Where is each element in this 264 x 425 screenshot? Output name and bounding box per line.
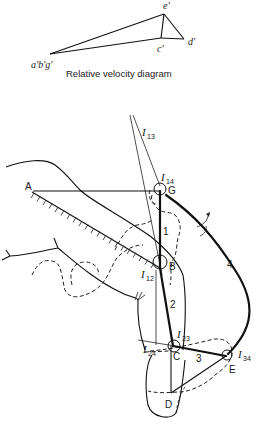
svg-text:14: 14 [166, 178, 174, 185]
joint-e-label: E [229, 364, 236, 375]
svg-text:24: 24 [148, 350, 156, 357]
point-c-prime: c' [157, 43, 164, 54]
svg-text:23: 23 [182, 335, 190, 342]
ic-12: I 12 [140, 268, 154, 282]
velocity-polygon [50, 14, 184, 54]
svg-text:34: 34 [243, 355, 251, 362]
link-2-label: 2 [170, 299, 176, 310]
ic-13: I 13 [141, 126, 155, 140]
ic-34: I 34 [237, 348, 251, 362]
joints [153, 183, 232, 360]
link-1-label: 1 [163, 226, 169, 237]
dashed-finger-outline [32, 190, 232, 393]
hand-outline [2, 161, 186, 417]
point-abg-prime: a'b'g' [31, 59, 53, 70]
ic-24: I 24 [142, 343, 156, 357]
joint-b-label: B [169, 261, 176, 272]
mechanism-diagram: e' c' d' a'b'g' Relative velocity diagra… [0, 0, 264, 425]
link-4-label: 4 [227, 259, 233, 270]
link-3-label: 3 [196, 353, 202, 364]
point-e-prime: e' [163, 0, 170, 11]
joint-d-label: D [165, 399, 172, 410]
svg-text:12: 12 [146, 275, 154, 282]
joint-g-label: G [168, 185, 176, 196]
linkage [33, 191, 249, 393]
joint-c-label: C [173, 351, 180, 362]
point-d-prime: d' [188, 36, 196, 47]
svg-text:13: 13 [147, 133, 155, 140]
ic-14: I 14 [160, 171, 174, 185]
joint-a-label: A [25, 181, 32, 192]
velocity-diagram-caption: Relative velocity diagram [66, 68, 172, 79]
ic-23: I 23 [176, 328, 190, 342]
